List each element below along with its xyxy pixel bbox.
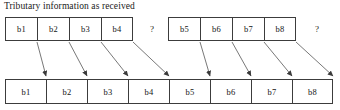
bottom-cell-b8-label: b8 xyxy=(308,87,317,97)
bottom-cell-b3-label: b3 xyxy=(104,87,113,97)
mapping-arrow-b8 xyxy=(296,42,333,76)
bottom-cell-b6-label: b6 xyxy=(227,87,236,97)
bottom-cell-b5[interactable]: b5 xyxy=(169,79,210,104)
bottom-row: b1 b2 b3 b4 b5 b6 b7 b8 xyxy=(5,79,333,104)
bottom-cell-b7-label: b7 xyxy=(268,87,277,97)
bottom-cell-b4[interactable]: b4 xyxy=(128,79,169,104)
bottom-cell-b3[interactable]: b3 xyxy=(87,79,128,104)
mapping-arrow-b6 xyxy=(232,42,251,76)
bottom-cell-b6[interactable]: b6 xyxy=(210,79,251,104)
bottom-cell-b4-label: b4 xyxy=(145,87,154,97)
mapping-arrow-b3 xyxy=(101,42,128,76)
mapping-arrow-b7 xyxy=(264,42,292,76)
mapping-arrow-b5 xyxy=(200,42,210,76)
bottom-cell-b5-label: b5 xyxy=(186,87,195,97)
mapping-arrow-b2 xyxy=(69,42,87,76)
mapping-arrow-b1 xyxy=(37,42,46,76)
bottom-cell-b8[interactable]: b8 xyxy=(292,79,333,104)
mapping-arrow-b4 xyxy=(133,42,169,76)
bottom-cell-b2[interactable]: b2 xyxy=(46,79,87,104)
bottom-cell-b2-label: b2 xyxy=(63,87,72,97)
bottom-cell-b1-label: b1 xyxy=(22,87,31,97)
tributary-mapping-diagram: Tributary information as received b1 b2 … xyxy=(0,0,340,110)
bottom-cell-b1[interactable]: b1 xyxy=(5,79,46,104)
bottom-cell-b7[interactable]: b7 xyxy=(251,79,292,104)
